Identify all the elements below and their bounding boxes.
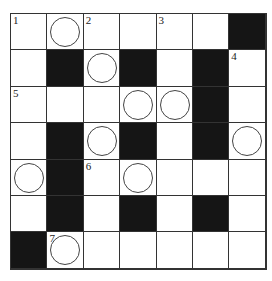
black-cell <box>193 196 229 232</box>
grid-cell[interactable] <box>11 160 47 196</box>
grid-cell[interactable] <box>193 14 229 50</box>
black-cell <box>47 50 83 86</box>
grid-cell[interactable] <box>229 196 265 232</box>
clue-number: 2 <box>86 14 92 26</box>
clue-number: 7 <box>49 232 55 244</box>
grid-cell[interactable] <box>84 196 120 232</box>
clue-number: 3 <box>159 14 165 26</box>
grid-cell[interactable] <box>120 160 156 196</box>
circle-icon <box>123 163 153 193</box>
grid-cell[interactable] <box>11 123 47 159</box>
grid-cell[interactable] <box>47 14 83 50</box>
circle-icon <box>160 90 190 120</box>
grid-cell[interactable] <box>120 232 156 268</box>
grid-cell[interactable] <box>120 87 156 123</box>
black-cell <box>229 14 265 50</box>
grid-cell[interactable] <box>157 160 193 196</box>
grid-cell[interactable]: 2 <box>84 14 120 50</box>
grid-cell[interactable] <box>84 232 120 268</box>
grid-cell[interactable] <box>11 196 47 232</box>
grid-cell[interactable] <box>157 196 193 232</box>
circle-icon <box>123 90 153 120</box>
black-cell <box>47 160 83 196</box>
black-cell <box>120 50 156 86</box>
grid-cell[interactable] <box>84 87 120 123</box>
grid-cell[interactable]: 6 <box>84 160 120 196</box>
grid-cell[interactable] <box>84 50 120 86</box>
grid-cell[interactable]: 1 <box>11 14 47 50</box>
circle-icon <box>87 126 117 156</box>
circle-icon <box>50 17 80 47</box>
black-cell <box>47 196 83 232</box>
black-cell <box>120 123 156 159</box>
circle-icon <box>87 53 117 83</box>
grid-cell[interactable] <box>157 87 193 123</box>
grid-cell[interactable] <box>157 123 193 159</box>
black-cell <box>11 232 47 268</box>
black-cell <box>120 196 156 232</box>
grid-cell[interactable] <box>47 87 83 123</box>
grid-cell[interactable]: 4 <box>229 50 265 86</box>
black-cell <box>193 87 229 123</box>
grid-cell[interactable] <box>193 232 229 268</box>
grid-cell[interactable] <box>84 123 120 159</box>
grid-cell[interactable] <box>11 50 47 86</box>
black-cell <box>193 123 229 159</box>
grid-cell[interactable]: 3 <box>157 14 193 50</box>
black-cell <box>193 50 229 86</box>
black-cell <box>47 123 83 159</box>
grid-cell[interactable] <box>229 87 265 123</box>
grid-cell[interactable] <box>157 232 193 268</box>
grid-cell[interactable] <box>193 160 229 196</box>
crossword-grid: 1234567 <box>10 13 267 270</box>
grid-cell[interactable] <box>157 50 193 86</box>
grid-cell[interactable]: 7 <box>47 232 83 268</box>
grid-cell[interactable]: 5 <box>11 87 47 123</box>
grid-cell[interactable] <box>229 160 265 196</box>
circle-icon <box>232 126 262 156</box>
grid-cell[interactable] <box>229 232 265 268</box>
clue-number: 1 <box>13 14 19 26</box>
clue-number: 6 <box>86 160 92 172</box>
clue-number: 4 <box>231 50 237 62</box>
grid-cell[interactable] <box>120 14 156 50</box>
clue-number: 5 <box>13 87 19 99</box>
circle-icon <box>14 163 44 193</box>
grid-cell[interactable] <box>229 123 265 159</box>
